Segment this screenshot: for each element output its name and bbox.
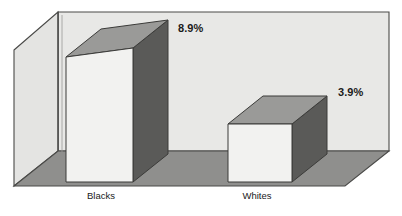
bar-blacks-front-face <box>66 48 133 182</box>
category-label-blacks: Blacks <box>70 190 132 201</box>
category-label-whites: Whites <box>226 190 288 201</box>
bar-chart-3d: 8.9% 3.9% Blacks Whites <box>0 0 402 216</box>
bar-value-label-blacks: 8.9% <box>178 22 203 34</box>
bar-whites-front-face <box>228 124 292 182</box>
bar-value-label-whites: 3.9% <box>338 86 363 98</box>
bar-blacks <box>66 20 168 182</box>
